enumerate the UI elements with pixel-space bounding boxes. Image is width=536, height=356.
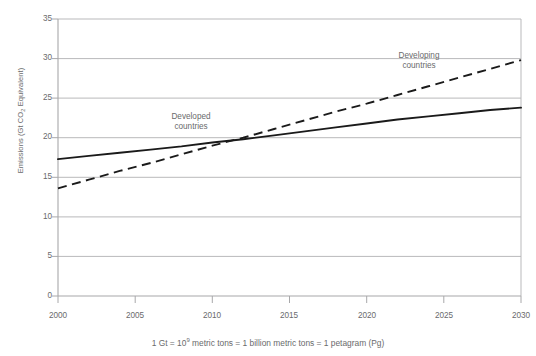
annotation-developed-line1: Developed (148, 112, 234, 122)
annotation-developing-countries: Developing countries (376, 51, 462, 71)
emissions-chart-figure: Emissions (Gt CO2 Equivalent) 35 30 25 2… (0, 0, 536, 356)
annotation-developed-line2: countries (148, 122, 234, 132)
series-line-developed (58, 108, 521, 159)
annotation-developed-countries: Developed countries (148, 112, 234, 132)
footnote-suffix: metric tons = 1 billion metric tons = 1 … (190, 338, 385, 348)
y-axis-ticks (52, 19, 58, 296)
series-line-developing (58, 60, 521, 188)
chart-footnote: 1 Gt = 109 metric tons = 1 billion metri… (0, 337, 536, 348)
x-axis-ticks (58, 296, 521, 303)
annotation-developing-line1: Developing (376, 51, 462, 61)
annotation-developing-line2: countries (376, 61, 462, 71)
footnote-prefix: 1 Gt = 10 (152, 338, 187, 348)
